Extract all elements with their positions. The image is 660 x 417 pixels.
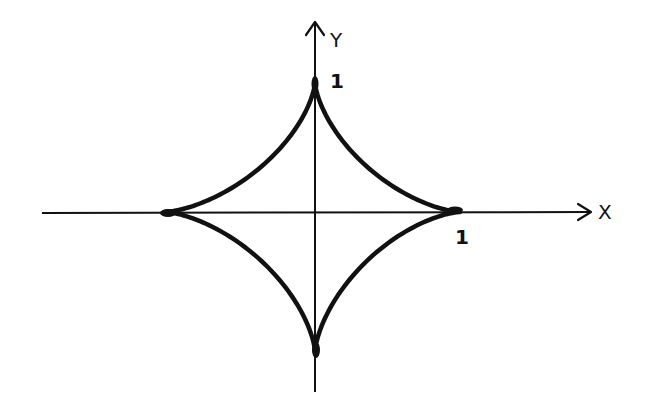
cusp-left	[160, 209, 176, 217]
x-tick-label-1: 1	[455, 225, 469, 249]
astroid-curve	[165, 82, 460, 352]
cusp-right	[447, 207, 463, 214]
cusp-top	[312, 76, 319, 92]
cusp-bottom	[312, 342, 320, 358]
x-axis	[42, 204, 591, 220]
y-axis-label: Y	[329, 28, 343, 52]
astroid-diagram: Y X 1 1	[0, 0, 660, 417]
y-tick-label-1: 1	[330, 69, 344, 93]
x-axis-label: X	[598, 200, 612, 224]
